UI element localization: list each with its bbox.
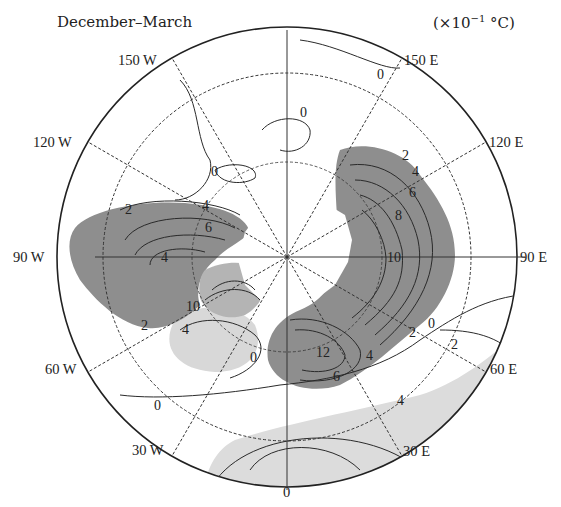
contour-label: 12 — [316, 345, 330, 360]
contour-label: 6 — [333, 369, 340, 384]
contour-label: 2 — [409, 325, 416, 340]
contour-label: 2 — [402, 148, 409, 163]
contour-label: 4 — [397, 393, 404, 408]
contour-label: 2 — [125, 202, 132, 217]
contour-label: 0 — [250, 350, 257, 365]
contour-label: 4 — [412, 164, 419, 179]
lon-label-0: 0 — [283, 484, 290, 500]
contour-label: 4 — [366, 348, 373, 363]
contour-label: 8 — [395, 208, 402, 223]
contour-label: 2 — [141, 318, 148, 333]
contour-label: 0 — [428, 316, 435, 331]
lon-label-150e: 150 E — [404, 52, 438, 68]
lon-label-120w: 120 W — [33, 134, 72, 150]
lon-label-90e: 90 E — [520, 249, 547, 265]
lon-label-150w: 150 W — [118, 52, 157, 68]
contour-label: 0 — [211, 164, 218, 179]
contour-label: 4 — [161, 250, 168, 265]
lon-label-60w: 60 W — [45, 361, 77, 377]
polar-map: 0 30 E 60 E 90 E 120 E 150 E 150 W 120 W… — [0, 0, 561, 507]
contour-label: 0 — [300, 105, 307, 120]
contour-label: 2 — [451, 337, 458, 352]
contour-label: 6 — [205, 220, 212, 235]
lon-label-60e: 60 E — [490, 361, 517, 377]
contour-label: 10 — [387, 250, 401, 265]
contour-label: 4 — [182, 322, 189, 337]
contour-label: 0 — [377, 67, 384, 82]
lon-label-90w: 90 W — [13, 249, 45, 265]
lon-label-120e: 120 E — [489, 134, 523, 150]
contour-label: 10 — [186, 299, 200, 314]
contour-label: 4 — [202, 198, 209, 213]
lon-label-30w: 30 W — [132, 442, 164, 458]
contour-label: 0 — [154, 398, 161, 413]
lon-label-30e: 30 E — [403, 443, 430, 459]
contour-label: 6 — [409, 185, 416, 200]
